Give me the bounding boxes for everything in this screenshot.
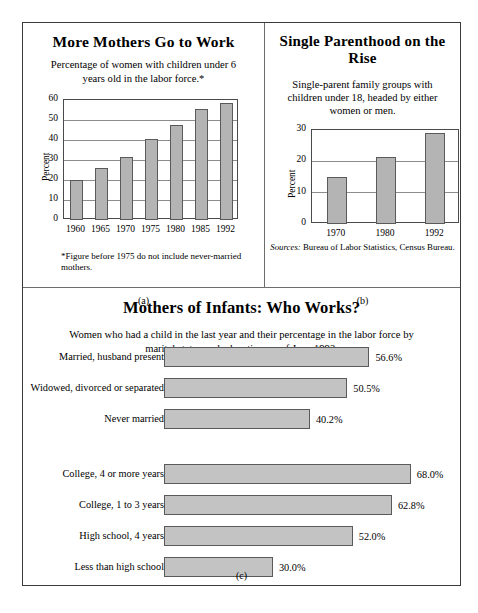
bar-value-label: 50.5%	[353, 383, 380, 394]
bar-category-label: Never married	[4, 413, 164, 425]
panel-c-caption: (c)	[23, 570, 460, 581]
panel-b-sources: Sources: Bureau of Labor Statistics, Cen…	[265, 242, 460, 253]
bar-value-label: 68.0%	[417, 469, 444, 480]
figure-page: More Mothers Go to Work Percentage of wo…	[22, 22, 461, 586]
chart-b-bar	[425, 133, 445, 224]
bar	[164, 378, 347, 398]
panel-a-title: More Mothers Go to Work	[23, 33, 264, 50]
bar-row: College, 4 or more years68.0%	[23, 463, 460, 485]
bar-row: College, 1 to 3 years62.8%	[23, 494, 460, 516]
bar	[164, 409, 310, 429]
bar-row: Widowed, divorced or separated50.5%	[23, 377, 460, 399]
chart-a-bar	[145, 139, 158, 220]
bar-value-label: 62.8%	[398, 500, 425, 511]
bar-category-label: Married, husband present	[4, 351, 164, 363]
bar	[164, 464, 411, 484]
chart-b-bar	[327, 177, 347, 224]
chart-b-bar	[376, 157, 396, 224]
chart-a-y-tick: 60	[39, 93, 58, 103]
chart-b-x-tick: 1992	[410, 228, 459, 238]
chart-a-y-tick: 50	[39, 113, 58, 123]
panel-c: Mothers of Infants: Who Works? Women who…	[23, 288, 460, 586]
panel-a-footnote: *Figure before 1975 do not include never…	[61, 251, 251, 274]
sources-label: Sources:	[270, 242, 300, 252]
chart-a-bar	[220, 103, 233, 220]
bar-value-label: 40.2%	[316, 414, 343, 425]
chart-b-y-tick: 10	[285, 186, 306, 196]
bar-group-marital-status: Married, husband present56.6%Widowed, di…	[23, 346, 460, 439]
bar-value-label: 52.0%	[359, 531, 386, 542]
chart-a-bar	[195, 109, 208, 220]
chart-a-bar	[120, 157, 133, 220]
panel-c-title: Mothers of Infants: Who Works?	[23, 298, 460, 318]
bar-row: Never married40.2%	[23, 408, 460, 430]
chart-a-plot-area	[63, 99, 238, 219]
top-row: More Mothers Go to Work Percentage of wo…	[23, 23, 460, 287]
bar-category-label: College, 1 to 3 years	[4, 499, 164, 511]
bar-group-education: College, 4 or more years68.0%College, 1 …	[23, 463, 460, 587]
chart-b-y-tick: 0	[285, 217, 306, 227]
chart-a-bar	[95, 168, 108, 220]
chart-b-x-tick: 1970	[311, 228, 360, 238]
chart-b-plot-area	[311, 129, 459, 223]
panel-a: More Mothers Go to Work Percentage of wo…	[23, 23, 264, 287]
chart-a-y-tick: 20	[39, 173, 58, 183]
chart-b-x-tick: 1980	[360, 228, 409, 238]
bar-category-label: High school, 4 years	[4, 530, 164, 542]
chart-a-bar	[70, 180, 83, 220]
panel-b: Single Parenthood on the Rise Single-par…	[265, 23, 460, 287]
panel-b-subtitle: Single-parent family groups with childre…	[265, 78, 460, 118]
bar	[164, 526, 353, 546]
bar-value-label: 56.6%	[375, 352, 402, 363]
chart-a-x-tick: 1992	[213, 224, 238, 234]
chart-b-y-tick: 30	[285, 123, 306, 133]
bar	[164, 495, 392, 515]
chart-a-y-tick: 10	[39, 193, 58, 203]
bar-row: High school, 4 years52.0%	[23, 525, 460, 547]
chart-a-bar	[170, 125, 183, 220]
chart-b-y-tick: 20	[285, 154, 306, 164]
chart-a-x-tick: 1980	[163, 224, 188, 234]
panel-b-title: Single Parenthood on the Rise	[265, 33, 460, 67]
bar	[164, 347, 369, 367]
chart-a-y-tick: 40	[39, 133, 58, 143]
sources-text: Bureau of Labor Statistics, Census Burea…	[301, 242, 455, 252]
panel-a-subtitle: Percentage of women with children under …	[23, 58, 264, 85]
chart-a-y-tick: 30	[39, 153, 58, 163]
chart-a-y-tick: 0	[39, 213, 58, 223]
bar-category-label: College, 4 or more years	[4, 468, 164, 480]
chart-a-x-tick: 1965	[88, 224, 113, 234]
bar-category-label: Widowed, divorced or separated	[4, 382, 164, 394]
chart-a-gridline	[64, 120, 237, 121]
chart-a-x-tick: 1970	[113, 224, 138, 234]
chart-a-x-tick: 1985	[188, 224, 213, 234]
chart-a-x-tick: 1975	[138, 224, 163, 234]
chart-a-x-tick: 1960	[63, 224, 88, 234]
bar-row: Married, husband present56.6%	[23, 346, 460, 368]
